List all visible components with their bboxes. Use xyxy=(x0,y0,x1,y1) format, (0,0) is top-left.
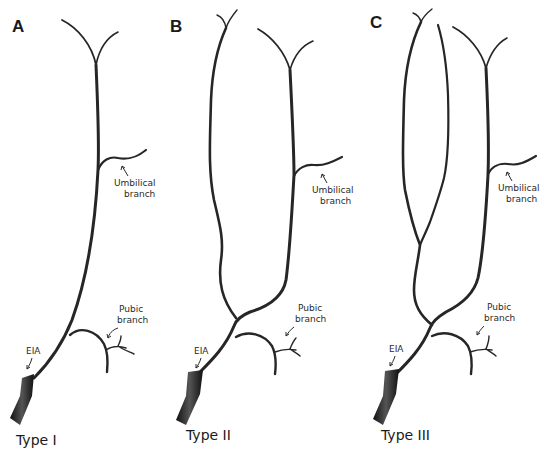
superior-branch-left xyxy=(62,20,96,65)
eia-arrow-icon xyxy=(27,358,32,369)
umbilical-label-line1: Umbilical xyxy=(114,178,156,188)
umbilical-label-line2: branch xyxy=(320,196,351,206)
left-vessel-fork-b xyxy=(226,10,237,28)
diagram-canvas: A Umbilical branch Pubic branch EIA Type… xyxy=(0,0,544,452)
panel-letter-b: B xyxy=(170,17,182,36)
panel-b: B Umbilical branch Pubic branch EIA Type… xyxy=(170,10,354,443)
left-vessel-fork-a xyxy=(217,15,226,28)
umbilical-branch xyxy=(488,156,536,174)
eia-vessel xyxy=(373,369,399,425)
umbilical-arrow-icon xyxy=(321,174,327,183)
umbilical-label-line2: branch xyxy=(124,189,155,199)
eia-label: EIA xyxy=(26,346,41,356)
superior-branch-left xyxy=(453,27,486,68)
umbilical-label-line1: Umbilical xyxy=(498,183,540,193)
type-label-a: Type I xyxy=(15,432,57,448)
superior-branch-left xyxy=(258,29,290,70)
umbilical-arrow-icon xyxy=(121,166,128,176)
pubic-branch-twigs xyxy=(470,336,496,356)
pubic-branch xyxy=(70,330,108,372)
pubic-branch-twigs xyxy=(275,338,300,356)
umbilical-label-line2: branch xyxy=(506,194,537,204)
pubic-branch xyxy=(236,334,276,374)
type-label-b: Type II xyxy=(185,427,231,443)
pubic-label-line1: Pubic xyxy=(119,304,143,314)
panel-a: A Umbilical branch Pubic branch EIA Type… xyxy=(10,17,156,448)
pubic-label-line1: Pubic xyxy=(298,303,322,313)
eia-vessel xyxy=(10,374,34,425)
panel-letter-c: C xyxy=(370,13,382,32)
eia-vessel xyxy=(176,370,203,425)
inferior-epigastric-trunk xyxy=(396,68,488,374)
pubic-branch-twigs xyxy=(106,336,134,354)
umbilical-branch xyxy=(294,157,342,176)
eia-arrow-icon xyxy=(196,358,201,368)
pubic-label-line2: branch xyxy=(117,315,148,325)
lateral-branch-vessel xyxy=(403,22,432,325)
eia-arrow-icon xyxy=(390,356,395,366)
panel-c: C Umbilical branch Pubic branch EIA Type… xyxy=(370,9,540,443)
pubic-label-line2: branch xyxy=(295,314,326,324)
pubic-arrow-icon xyxy=(107,328,118,338)
superior-branch-right xyxy=(486,38,507,68)
pubic-label-line2: branch xyxy=(484,313,515,323)
superior-branch-right xyxy=(290,41,313,70)
umbilical-label-line1: Umbilical xyxy=(312,185,354,195)
eia-label: EIA xyxy=(194,346,209,356)
pubic-arrow-icon xyxy=(477,326,484,335)
medial-branch-vessel xyxy=(420,25,448,245)
pubic-branch xyxy=(432,333,472,374)
pubic-arrow-icon xyxy=(286,327,294,336)
pubic-label-line1: Pubic xyxy=(487,302,511,312)
type-label-c: Type III xyxy=(380,427,430,443)
lateral-branch-vessel xyxy=(210,28,236,318)
panel-letter-a: A xyxy=(12,17,24,36)
inferior-epigastric-trunk xyxy=(200,70,294,372)
eia-label: EIA xyxy=(389,344,404,354)
left-vessel-fork-b xyxy=(421,9,432,22)
left-vessel-fork-a xyxy=(413,13,421,22)
umbilical-arrow-icon xyxy=(506,172,512,181)
superior-branch-right xyxy=(96,32,118,65)
